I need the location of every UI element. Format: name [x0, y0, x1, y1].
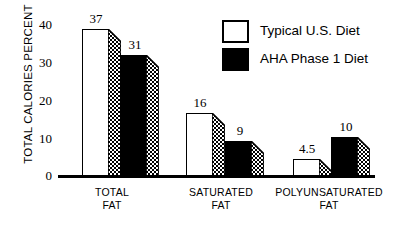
- category-label-line-1: TOTAL: [72, 186, 152, 199]
- bar-face: [331, 137, 358, 177]
- bar-value-label: 10: [326, 120, 366, 133]
- category-label-saturated-fat: SATURATED FAT: [174, 186, 268, 211]
- category-label-line-1: SATURATED: [174, 186, 268, 199]
- bar-value-label: 4.5: [286, 142, 328, 155]
- bar-face: [82, 29, 109, 177]
- category-label-polyunsaturated-fat: POLYUNSATURATED FAT: [265, 186, 393, 211]
- category-label-line-2: FAT: [265, 199, 393, 212]
- bar-face: [186, 113, 213, 177]
- category-label-total-fat: TOTAL FAT: [72, 186, 152, 211]
- bar-chart: TOTAL CALORIES PERCENT 40 30 20 10 0 37: [0, 0, 393, 243]
- bar-value-label: 16: [180, 96, 220, 109]
- bar-value-label: 31: [115, 38, 155, 51]
- category-label-line-2: FAT: [72, 199, 152, 212]
- bar-face: [225, 141, 252, 177]
- legend-swatch-open: [222, 20, 249, 43]
- bar-face: [120, 55, 147, 177]
- category-label-line-2: FAT: [174, 199, 268, 212]
- legend-label: Typical U.S. Diet: [260, 22, 360, 40]
- bar-value-label: 9: [220, 124, 260, 137]
- category-label-line-1: POLYUNSATURATED: [265, 186, 393, 199]
- bar-value-label: 37: [76, 12, 116, 25]
- legend-swatch-solid: [222, 48, 249, 71]
- legend-label: AHA Phase 1 Diet: [260, 50, 368, 68]
- x-axis-baseline: [58, 175, 375, 178]
